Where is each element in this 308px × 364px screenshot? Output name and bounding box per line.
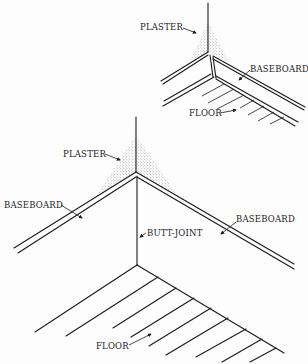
top-detail: PLASTER BASEBOARD FLOOR [140, 3, 308, 126]
floor-left-edge [164, 74, 211, 101]
butt-joint-label: BUTT-JOINT [147, 228, 203, 238]
main-floor-label: FLOOR [96, 341, 129, 351]
floor-left-edge [163, 77, 214, 106]
main-detail: PLASTER BASEBOARD BASEBOARD BUTT-JOINT F… [4, 117, 295, 362]
arrow-icon [61, 205, 82, 218]
top-baseboard-label: BASEBOARD [250, 64, 308, 74]
floor-hatch [202, 84, 284, 124]
right-baseboard-label: BASEBOARD [236, 214, 295, 224]
left-baseboard-edge [14, 172, 136, 248]
top-floor-label: FLOOR [189, 108, 222, 118]
baseboard-corner-diagram: PLASTER BASEBOARD FLOOR [0, 0, 308, 364]
main-plaster-label: PLASTER [63, 149, 106, 159]
arrow-icon [140, 233, 146, 237]
top-plaster-label: PLASTER [140, 22, 183, 32]
floor-right-edge [216, 76, 298, 122]
left-baseboard-label: BASEBOARD [4, 200, 63, 210]
arrow-icon [183, 28, 196, 33]
left-baseboard-edge [161, 52, 208, 81]
arrow-icon [105, 154, 120, 160]
floor-right-edge [216, 79, 295, 126]
arrow-icon [220, 110, 236, 113]
